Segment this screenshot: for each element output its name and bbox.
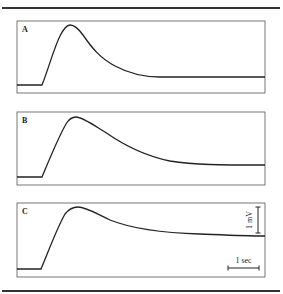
trace-a [17, 25, 265, 85]
voltage-scale-label: 1 mV [245, 211, 254, 229]
trace-b [17, 117, 265, 177]
voltage-scale-bar: 1 mV [245, 207, 261, 233]
time-scale-label: 1 sec [235, 256, 252, 265]
time-scale-bar: 1 sec [228, 256, 259, 271]
figure-canvas: A B C 1 mV 1 sec [0, 0, 283, 294]
panel-b-label: B [22, 116, 28, 125]
panel-a-label: A [22, 25, 28, 34]
panel-c: C 1 mV 1 sec [17, 203, 265, 277]
panel-a: A [17, 21, 265, 93]
trace-c [17, 207, 265, 269]
panel-b: B [17, 112, 265, 185]
panel-c-label: C [22, 207, 28, 216]
